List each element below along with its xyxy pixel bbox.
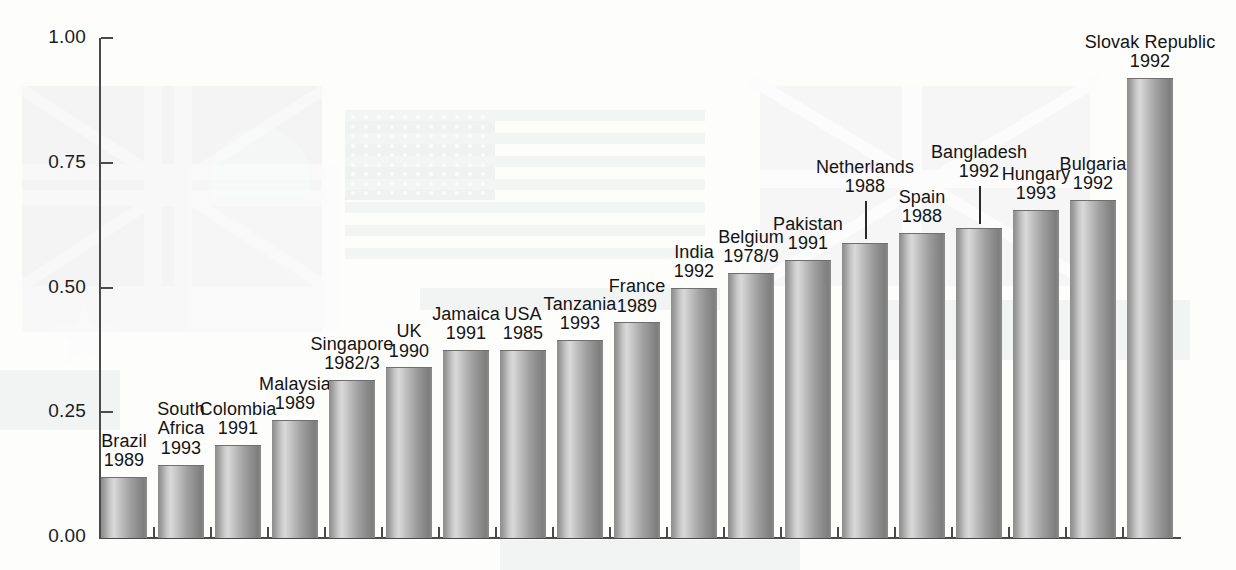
flag-watermark-dome-base: [190, 166, 338, 334]
x-tick-mark: [666, 527, 668, 539]
x-tick-mark: [381, 527, 383, 539]
bar-label: Slovak Republic1992: [1060, 33, 1236, 72]
bar-label-country: Slovak Republic: [1060, 33, 1236, 52]
flag-watermark-dome: [212, 128, 310, 198]
x-tick-mark: [609, 527, 611, 539]
bar[interactable]: [785, 260, 831, 538]
bar[interactable]: [500, 350, 546, 538]
bar[interactable]: [728, 273, 774, 538]
bar[interactable]: [386, 367, 432, 538]
y-tick-label: 0.75: [20, 151, 86, 173]
x-tick-mark: [1065, 527, 1067, 539]
bar[interactable]: [614, 322, 660, 538]
y-tick-mark: [101, 162, 113, 164]
bar[interactable]: [899, 233, 945, 538]
y-tick-label: 0.00: [20, 525, 86, 547]
bar[interactable]: [101, 477, 147, 538]
x-tick-mark: [723, 527, 725, 539]
bar[interactable]: [1070, 200, 1116, 538]
watermark-stripe: [500, 540, 800, 570]
bar[interactable]: [956, 228, 1002, 538]
star-watermark: [48, 300, 120, 372]
y-tick-mark: [101, 287, 113, 289]
bar[interactable]: [215, 445, 261, 538]
bar[interactable]: [557, 340, 603, 538]
bar[interactable]: [671, 288, 717, 539]
bar[interactable]: [1127, 78, 1173, 538]
y-tick-label: 0.50: [20, 276, 86, 298]
x-tick-mark: [210, 527, 212, 539]
bar-label-year: 1992: [1060, 52, 1236, 71]
bar[interactable]: [272, 420, 318, 538]
bar[interactable]: [443, 350, 489, 538]
x-tick-mark: [1122, 527, 1124, 539]
bar-chart: 0.000.250.500.751.00 Brazil1989SouthAfri…: [0, 0, 1236, 570]
union-jack-watermark: [22, 86, 322, 286]
x-tick-mark: [894, 527, 896, 539]
x-tick-mark: [780, 527, 782, 539]
bar[interactable]: [158, 465, 204, 538]
x-tick-mark: [495, 527, 497, 539]
x-tick-mark: [324, 527, 326, 539]
x-tick-mark: [267, 527, 269, 539]
x-tick-mark: [951, 527, 953, 539]
x-tick-mark: [837, 527, 839, 539]
bar[interactable]: [329, 380, 375, 538]
bar-label-year: 1988: [832, 207, 1012, 226]
x-tick-mark: [438, 527, 440, 539]
bar[interactable]: [842, 243, 888, 538]
y-tick-label: 1.00: [20, 26, 86, 48]
x-tick-mark: [153, 527, 155, 539]
y-tick-label: 0.25: [20, 400, 86, 422]
bar[interactable]: [1013, 210, 1059, 538]
y-tick-mark: [101, 37, 113, 39]
x-tick-mark: [552, 527, 554, 539]
x-tick-mark: [1008, 527, 1010, 539]
